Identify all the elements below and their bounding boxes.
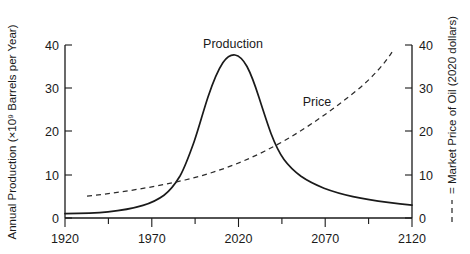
y-tick-label-right-0: 0 (419, 212, 426, 226)
y-tick-label-left-30: 30 (45, 82, 59, 96)
y-tick-label-right-40: 40 (419, 39, 433, 53)
x-tick-label-2070: 2070 (311, 232, 339, 246)
y-tick-label-left-0: 0 (52, 212, 59, 226)
x-axis: 1920 1970 2020 2070 2120 (51, 218, 426, 246)
x-tick-label-2020: 2020 (225, 232, 253, 246)
y-tick-label-left-40: 40 (45, 39, 59, 53)
y-axis-left: 40 30 20 10 0 (45, 39, 72, 226)
y-axis-title-left: Annual Production (×10⁹ Barrels per Year… (6, 24, 18, 239)
y-tick-label-left-20: 20 (45, 125, 59, 139)
y-tick-label-right-30: 30 (419, 82, 433, 96)
legend-label-price: = Market Price of Oil (2020 dollars) (446, 16, 458, 194)
series-line-production (65, 55, 412, 214)
x-tick-label-1970: 1970 (138, 232, 166, 246)
annotation-production-label: Production (203, 37, 263, 51)
chart-svg: Annual Production (×10⁹ Barrels per Year… (0, 0, 470, 254)
oil-production-price-chart: Annual Production (×10⁹ Barrels per Year… (0, 0, 470, 254)
legend: = Market Price of Oil (2020 dollars) (446, 16, 458, 222)
series-line-price (87, 51, 393, 197)
y-axis-right: 40 30 20 10 0 (405, 39, 433, 226)
y-tick-label-left-10: 10 (45, 169, 59, 183)
x-tick-label-1920: 1920 (51, 232, 79, 246)
y-tick-label-right-20: 20 (419, 125, 433, 139)
y-tick-label-right-10: 10 (419, 169, 433, 183)
x-tick-label-2120: 2120 (398, 232, 426, 246)
annotation-price-label: Price (303, 95, 332, 109)
